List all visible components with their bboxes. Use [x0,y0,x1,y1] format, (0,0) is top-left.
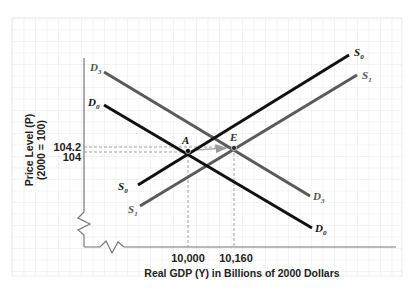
point-e-label: E [229,131,237,143]
ytick-104: 104 [63,151,82,163]
point-a-label: A [181,134,189,146]
point-a-marker [185,148,190,153]
xtick-10160: 10,160 [219,252,253,264]
x-axis-title: Real GDP (Y) in Billions of 2000 Dollars [144,267,339,279]
ad-as-chart: A E D3 D0 S0 S1 S0 S1 D3 D0 104.2 104 10… [0,0,412,298]
xtick-10000: 10,000 [171,252,205,264]
y-axis-subtitle: (2000 = 100) [35,120,47,180]
y-axis-title: Price Level (P) [23,114,35,186]
point-e-marker [231,145,236,150]
y-axis-title-group: Price Level (P) (2000 = 100) [23,114,47,186]
